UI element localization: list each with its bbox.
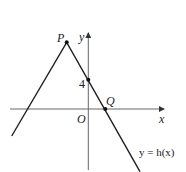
label-origin: O — [77, 112, 86, 126]
label-y-intercept: 4 — [79, 77, 85, 91]
point-y-intercept — [86, 78, 90, 82]
point-p — [65, 40, 69, 44]
label-p: P — [56, 31, 65, 45]
label-q: Q — [106, 94, 115, 108]
function-graph-h — [12, 42, 140, 171]
label-y-axis: y — [78, 30, 85, 44]
label-function: y = h(x) — [139, 146, 175, 159]
label-x-axis: x — [158, 112, 165, 126]
graph-canvas: P y 4 Q O x y = h(x) — [0, 0, 186, 172]
